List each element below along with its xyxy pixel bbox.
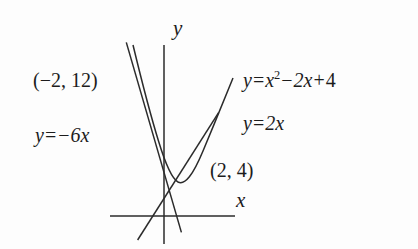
point-2-4-y: 4 bbox=[237, 159, 247, 181]
point-label-neg2-12: (−2, 12) bbox=[33, 70, 98, 90]
point-2-4-close: ) bbox=[247, 159, 254, 181]
parabola-equation-label: y=x2−2x+4 bbox=[243, 70, 336, 90]
point-2-4-open: ( bbox=[210, 159, 217, 181]
parabola-eq-lhs: y bbox=[243, 69, 252, 91]
axes-group bbox=[110, 45, 235, 244]
tangent-neg6x-equation-label: y=−6x bbox=[35, 125, 89, 145]
point-neg2-12-open: ( bbox=[33, 69, 40, 91]
curves-group bbox=[126, 42, 233, 240]
parabola-eq-term2-operator: − bbox=[280, 69, 293, 91]
parabola-eq-term3-operator: + bbox=[312, 69, 325, 91]
tangent-line-neg6x bbox=[126, 42, 181, 232]
parabola-eq-term2: 2x bbox=[294, 69, 313, 91]
math-figure: y=x2−2x+4 y=2x y=−6x (−2, 12) (2, 4) y x bbox=[0, 0, 418, 249]
tangent-2x-rhs: 2x bbox=[265, 112, 284, 134]
tangent-neg6x-lhs: y bbox=[35, 124, 44, 146]
point-2-4-x: 2 bbox=[217, 159, 227, 181]
point-neg2-12-x: −2 bbox=[40, 69, 61, 91]
point-label-2-4: (2, 4) bbox=[210, 160, 253, 180]
tangent-2x-lhs: y bbox=[243, 112, 252, 134]
point-neg2-12-comma: , bbox=[61, 69, 66, 91]
parabola-eq-term3: 4 bbox=[326, 69, 336, 91]
point-neg2-12-y: 12 bbox=[71, 69, 91, 91]
tangent-2x-equation-label: y=2x bbox=[243, 113, 284, 133]
tangent-neg6x-rhs: 6x bbox=[70, 124, 89, 146]
tangent-2x-equals: = bbox=[252, 112, 265, 134]
x-axis-label: x bbox=[236, 190, 245, 211]
y-axis-label: y bbox=[173, 18, 182, 39]
point-2-4-comma: , bbox=[227, 159, 232, 181]
tangent-neg6x-equals: = bbox=[44, 124, 57, 146]
point-neg2-12-close: ) bbox=[91, 69, 98, 91]
tangent-neg6x-minus: − bbox=[57, 124, 70, 146]
parabola-eq-equals: = bbox=[252, 69, 265, 91]
parabola-eq-base: x bbox=[265, 69, 274, 91]
